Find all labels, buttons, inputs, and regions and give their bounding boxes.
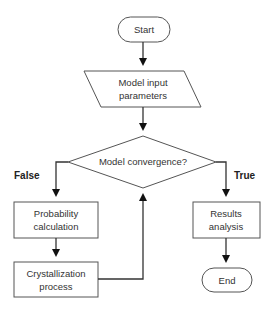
results-node: Results analysis xyxy=(193,202,260,238)
end-node: End xyxy=(202,268,252,292)
crystallization-label-line2: process xyxy=(39,281,73,292)
input-node: Model input parameters xyxy=(84,71,201,107)
decision-node: Model convergence? xyxy=(68,136,216,188)
false-label: False xyxy=(14,170,40,181)
crystallization-node: Crystallization process xyxy=(14,262,98,297)
edge-decision-probability xyxy=(56,162,68,195)
edge-decision-results xyxy=(216,162,226,195)
results-label-line2: analysis xyxy=(209,221,244,232)
decision-label: Model convergence? xyxy=(99,156,187,167)
probability-label-line1: Probability xyxy=(34,208,79,219)
probability-label-line2: calculation xyxy=(34,221,79,232)
results-label-line1: Results xyxy=(210,208,242,219)
true-label: True xyxy=(234,170,256,181)
flowchart: Start Model input parameters Model conve… xyxy=(0,0,269,311)
edge-crystallization-decision xyxy=(98,195,143,279)
start-node: Start xyxy=(118,17,170,42)
input-label-line2: parameters xyxy=(119,90,167,101)
end-label: End xyxy=(219,275,236,286)
probability-node: Probability calculation xyxy=(14,202,98,238)
crystallization-label-line1: Crystallization xyxy=(26,268,85,279)
start-label: Start xyxy=(134,24,154,35)
input-label-line1: Model input xyxy=(118,77,167,88)
